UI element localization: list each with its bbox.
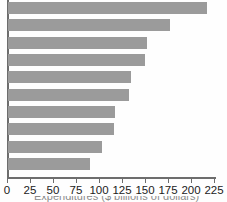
bar-series — [0, 0, 227, 178]
bar — [8, 106, 115, 118]
x-tick — [53, 178, 54, 183]
caption-strip: Expenditures ($ billions of dollars) — [0, 196, 227, 202]
bar — [8, 89, 129, 101]
bar — [8, 141, 102, 153]
axis-caption: Expenditures ($ billions of dollars) — [34, 196, 199, 202]
x-tick — [122, 178, 123, 183]
plot-area — [0, 0, 227, 178]
bar — [8, 123, 114, 135]
bar — [8, 158, 90, 170]
horizontal-bar-chart: 0255075100125150175200225 Expenditures (… — [0, 0, 227, 202]
bar — [8, 37, 147, 49]
bar — [8, 19, 170, 31]
x-tick — [145, 178, 146, 183]
x-tick — [214, 178, 215, 183]
x-tick — [30, 178, 31, 183]
bar — [8, 54, 145, 66]
x-tick — [191, 178, 192, 183]
bar — [8, 71, 131, 83]
x-tick — [76, 178, 77, 183]
bar — [8, 2, 207, 14]
x-tick — [168, 178, 169, 183]
x-tick — [7, 178, 8, 183]
x-tick — [99, 178, 100, 183]
